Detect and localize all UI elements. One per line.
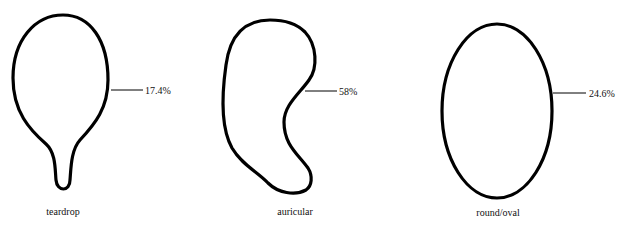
round-oval-label: round/oval xyxy=(476,207,520,218)
round-oval-shape xyxy=(442,24,552,198)
teardrop-percentage: 17.4% xyxy=(145,85,171,96)
auricular-percentage: 58% xyxy=(339,86,357,97)
teardrop-label: teardrop xyxy=(46,206,79,217)
auricular-group: 58% auricular xyxy=(223,20,357,217)
round-oval-group: 24.6% round/oval xyxy=(442,24,615,218)
auricular-label: auricular xyxy=(277,206,313,217)
auricular-shape xyxy=(223,20,315,193)
teardrop-group: 17.4% teardrop xyxy=(13,15,171,217)
round-oval-percentage: 24.6% xyxy=(589,88,615,99)
shape-distribution-figure: 17.4% teardrop 58% auricular 24.6% round… xyxy=(0,0,623,225)
teardrop-shape xyxy=(13,15,108,189)
